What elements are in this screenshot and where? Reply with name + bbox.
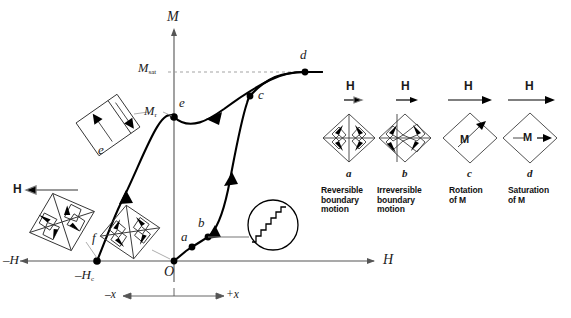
coercivity-symbol: –H bbox=[75, 267, 91, 282]
right-letter-c: c bbox=[467, 168, 472, 179]
point-label-b: b bbox=[198, 216, 205, 229]
m-sat-symbol: M bbox=[138, 61, 148, 75]
m-sat-label: Msat bbox=[138, 62, 156, 76]
coercivity-subscript: c bbox=[91, 275, 94, 283]
m-axis-label: M bbox=[167, 10, 179, 24]
point-label-e: e bbox=[179, 96, 185, 109]
m-r-subscript: r bbox=[154, 111, 156, 119]
left-field-label: H bbox=[13, 183, 22, 195]
right-caption-c: Rotation of M bbox=[449, 186, 483, 205]
h-axis-label-positive: H bbox=[383, 253, 393, 267]
point-marker-c bbox=[247, 93, 254, 100]
point-label-d: d bbox=[300, 48, 307, 61]
m-r-label: Mr bbox=[144, 105, 157, 119]
origin-label: O bbox=[164, 265, 174, 279]
right-field-label-b: H bbox=[401, 80, 410, 92]
right-letter-d: d bbox=[527, 168, 533, 179]
point-marker-f bbox=[93, 257, 101, 265]
right-m-label-c: M bbox=[460, 134, 469, 145]
m-r-symbol: M bbox=[144, 104, 154, 118]
right-letter-b: b bbox=[402, 168, 408, 179]
point-marker-e bbox=[170, 113, 178, 121]
coercivity-label: –Hc bbox=[75, 268, 94, 283]
x-negative-label: –x bbox=[105, 289, 116, 301]
right-field-label-c: H bbox=[464, 80, 473, 92]
right-m-label-d: M bbox=[523, 132, 532, 143]
point-label-c: c bbox=[258, 88, 264, 101]
m-sat-subscript: sat bbox=[148, 68, 156, 76]
point-label-a: a bbox=[181, 230, 188, 243]
right-letter-a: a bbox=[346, 168, 352, 179]
h-axis-label-negative: –H bbox=[3, 253, 19, 266]
point-label-f: f bbox=[92, 231, 96, 244]
point-marker-d bbox=[302, 69, 309, 76]
right-caption-d: Saturation of M bbox=[508, 186, 549, 205]
right-caption-b: Irreversible boundary motion bbox=[377, 186, 422, 215]
right-field-label-a: H bbox=[346, 80, 355, 92]
right-caption-a: Reversible boundary motion bbox=[321, 186, 363, 215]
right-field-label-d: H bbox=[525, 80, 534, 92]
x-positive-label: +x bbox=[226, 289, 239, 301]
point-marker-a bbox=[189, 244, 196, 251]
domain-e-letter: e bbox=[98, 143, 104, 156]
